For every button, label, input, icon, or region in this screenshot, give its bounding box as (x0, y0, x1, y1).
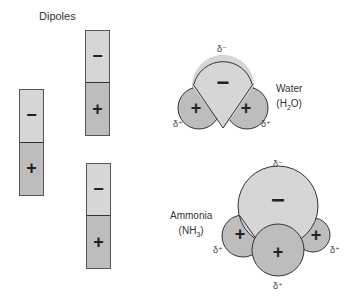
water-delta-plus-left: δ⁺ (173, 119, 183, 129)
ammonia-delta-minus: δ⁻ (273, 159, 283, 169)
water-name: Water (276, 81, 302, 96)
ammonia-delta-plus-right: δ⁺ (330, 245, 340, 255)
water-delta-plus-right: δ⁺ (261, 119, 271, 129)
ammonia-name: Ammonia (170, 208, 212, 223)
ammonia-positive-sign-front: + (267, 242, 289, 263)
water-positive-sign-left: + (185, 98, 207, 119)
water-negative-sign: − (212, 70, 234, 96)
ammonia-negative-sign: − (265, 186, 291, 214)
ammonia-formula: (NH3) (170, 223, 212, 242)
ammonia-label: Ammonia (NH3) (170, 208, 212, 242)
ammonia-delta-plus-left: δ⁺ (213, 245, 223, 255)
ammonia-positive-sign-left: + (229, 224, 251, 245)
ammonia-positive-sign-right: + (305, 225, 327, 246)
ammonia-delta-plus-bottom: δ⁺ (273, 281, 283, 291)
water-positive-sign-right: + (235, 98, 257, 119)
water-formula: (H2O) (276, 96, 302, 115)
water-label: Water (H2O) (276, 81, 302, 115)
molecule-drawings (0, 0, 357, 301)
water-delta-minus: δ⁻ (217, 44, 227, 54)
